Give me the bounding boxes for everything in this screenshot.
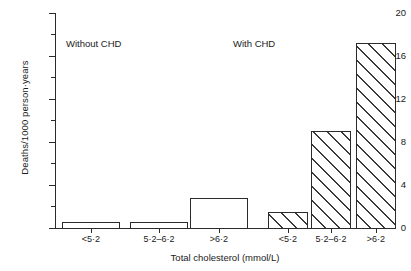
y-axis-line [55,13,56,229]
bar [62,222,120,229]
y-tick-minor [51,163,56,164]
bar [356,43,396,229]
y-tick-minor [51,34,56,35]
y-tick-major [49,13,56,14]
x-tick-label: >6·2 [336,234,411,244]
x-tick-label: >6·2 [179,234,259,244]
y-tick-label: 20 [362,8,406,18]
bar [311,131,351,229]
y-axis-label: Deaths/1000 person·years [19,18,30,218]
y-tick-minor [51,77,56,78]
group-annotation-without-chd: Without CHD [66,38,121,49]
y-tick-major [49,99,56,100]
y-tick-major [49,142,56,143]
bar [268,212,308,229]
y-tick-minor [51,206,56,207]
x-axis-label: Total cholesterol (mmol/L) [55,252,395,263]
bar [130,222,188,229]
y-tick-major [49,228,56,229]
bar [190,198,248,229]
y-tick-major [49,56,56,57]
y-tick-major [49,185,56,186]
group-annotation-with-chd: With CHD [233,38,275,49]
y-tick-minor [51,120,56,121]
